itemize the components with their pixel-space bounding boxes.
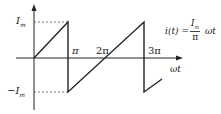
formula-fraction: Im π [190,19,200,42]
label-omega-t: ωt [170,65,181,74]
formula-rhs: ωt [205,27,216,36]
label-pi: π [72,46,79,56]
label-2pi: 2π [96,46,109,56]
label-neg-im: −Im [7,86,25,98]
x-axis-arrow-icon [176,56,183,61]
formula-numerator: Im [190,19,200,32]
label-3pi: 3π [148,46,161,56]
label-im: Im [16,16,26,28]
sawtooth-curve [34,22,162,92]
y-axis-arrow-icon [32,4,37,11]
formula-denominator: π [192,32,198,42]
waveform-plot [0,0,221,114]
formula-lhs: i(t) = [165,27,189,36]
